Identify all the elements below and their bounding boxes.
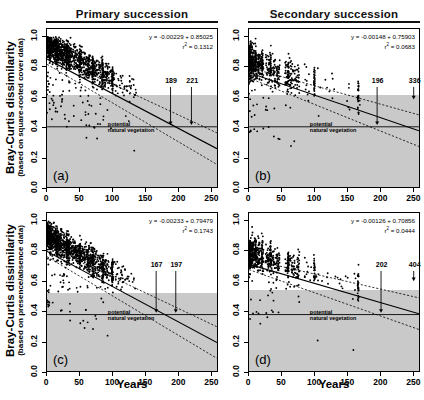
x-tick <box>145 372 146 376</box>
r-squared-label: r2 = 0.0683 <box>351 41 415 51</box>
regression-equation: y = -0.00229 + 0.85025r2 = 0.1312 <box>149 33 213 51</box>
y-tick <box>42 250 46 251</box>
x-tick <box>178 188 179 192</box>
x-tick <box>380 372 381 376</box>
y-tick-label: 0.2 <box>231 145 241 169</box>
x-tick <box>112 188 113 192</box>
regression-equation-line: y = -0.00229 + 0.85025 <box>149 33 213 41</box>
y-tick <box>244 188 248 189</box>
y-axis-title-row2-sub: (based on presence/absence data) <box>16 203 26 378</box>
x-tick <box>314 188 315 192</box>
x-tick <box>347 372 348 376</box>
y-tick <box>42 188 46 189</box>
y-axis-title-row1: Bray-Curtis dissimilarity (based on squa… <box>4 20 26 195</box>
y-tick-label: 0.6 <box>29 268 39 292</box>
y-tick <box>42 372 46 373</box>
x-tick <box>211 188 212 192</box>
x-tick-label: 200 <box>366 377 394 387</box>
threshold-year-label: 221 <box>180 77 204 84</box>
figure-root: Primary succession Secondary succession … <box>0 0 424 400</box>
x-tick <box>178 372 179 376</box>
y-tick <box>42 158 46 159</box>
plot-area: y = -0.00126 + 0.70856r2 = 0.0444potenti… <box>248 212 420 372</box>
y-tick-label: 1.0 <box>29 207 39 231</box>
x-tick-label: 250 <box>399 193 424 203</box>
x-tick-label: 250 <box>197 377 225 387</box>
x-tick-label: 150 <box>333 377 361 387</box>
column-title-primary-text: Primary succession <box>76 8 188 20</box>
y-tick <box>244 36 248 37</box>
scatter-layer <box>249 213 419 371</box>
y-tick-label: 0.4 <box>29 298 39 322</box>
x-tick-label: 250 <box>399 377 424 387</box>
x-tick <box>380 188 381 192</box>
x-tick <box>79 372 80 376</box>
panel-b: y = -0.00148 + 0.75903r2 = 0.0683potenti… <box>248 28 420 188</box>
column-title-secondary: Secondary succession <box>248 8 420 23</box>
x-tick <box>413 188 414 192</box>
panel-d: y = -0.00126 + 0.70856r2 = 0.0444potenti… <box>248 212 420 372</box>
scatter-layer <box>47 29 217 187</box>
threshold-year-label: 202 <box>370 261 394 268</box>
panel-label: (d) <box>255 352 271 367</box>
y-tick-label: 0.0 <box>29 359 39 383</box>
column-title-primary: Primary succession <box>46 8 218 23</box>
x-tick-label: 150 <box>131 377 159 387</box>
x-tick <box>347 188 348 192</box>
y-tick <box>244 158 248 159</box>
x-tick-label: 200 <box>164 377 192 387</box>
y-tick <box>244 281 248 282</box>
regression-equation: y = -0.00233 + 0.79479r2 = 0.1743 <box>149 217 213 235</box>
x-tick-label: 150 <box>333 193 361 203</box>
x-tick-label: 200 <box>366 193 394 203</box>
y-tick <box>42 311 46 312</box>
x-tick-label: 50 <box>65 377 93 387</box>
x-tick <box>211 372 212 376</box>
pnv-caption: potentialnatural vegetation <box>310 309 356 321</box>
y-axis-title-row1-main: Bray-Curtis dissimilarity <box>4 20 16 195</box>
y-tick-label: 1.0 <box>231 207 241 231</box>
column-title-secondary-text: Secondary succession <box>270 8 399 20</box>
pnv-caption: potentialnatural vegetation <box>108 121 154 133</box>
y-tick <box>42 97 46 98</box>
y-tick-label: 0.0 <box>231 359 241 383</box>
x-tick <box>46 188 47 192</box>
scatter-layer <box>47 213 217 371</box>
y-tick-label: 0.4 <box>231 114 241 138</box>
plot-area: y = -0.00229 + 0.85025r2 = 0.1312potenti… <box>46 28 218 188</box>
panel-label: (a) <box>53 168 69 183</box>
x-tick-label: 150 <box>131 193 159 203</box>
y-tick <box>244 127 248 128</box>
x-tick-label: 100 <box>98 377 126 387</box>
y-tick-label: 0.6 <box>29 84 39 108</box>
panel-c: y = -0.00233 + 0.79479r2 = 0.1743potenti… <box>46 212 218 372</box>
x-tick <box>112 372 113 376</box>
r-squared-label: r2 = 0.0444 <box>351 225 415 235</box>
x-tick-label: 200 <box>164 193 192 203</box>
threshold-year-label: 404 <box>403 261 424 268</box>
regression-equation-line: y = -0.00233 + 0.79479 <box>149 217 213 225</box>
x-tick <box>145 188 146 192</box>
x-tick-label: 100 <box>300 377 328 387</box>
y-tick-label: 0.6 <box>231 84 241 108</box>
y-tick-label: 0.0 <box>29 175 39 199</box>
y-tick-label: 0.2 <box>29 145 39 169</box>
column-title-primary-rule <box>46 21 218 23</box>
x-tick-label: 50 <box>267 193 295 203</box>
x-tick <box>281 372 282 376</box>
y-tick <box>244 250 248 251</box>
plot-area: y = -0.00233 + 0.79479r2 = 0.1743potenti… <box>46 212 218 372</box>
x-tick-label: 250 <box>197 193 225 203</box>
y-tick-label: 0.8 <box>231 237 241 261</box>
x-tick <box>248 372 249 376</box>
x-tick-label: 100 <box>98 193 126 203</box>
y-tick <box>244 66 248 67</box>
regression-equation: y = -0.00148 + 0.75903r2 = 0.0683 <box>351 33 415 51</box>
y-tick <box>244 372 248 373</box>
y-tick <box>42 220 46 221</box>
x-tick <box>46 372 47 376</box>
x-tick <box>281 188 282 192</box>
y-tick-label: 0.2 <box>29 329 39 353</box>
x-tick <box>413 372 414 376</box>
column-title-secondary-rule <box>248 21 420 23</box>
